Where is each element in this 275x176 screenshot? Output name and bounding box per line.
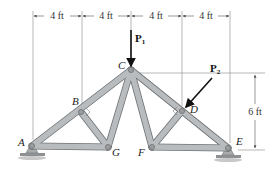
dimension-4: 4 ft (199, 10, 213, 21)
dimension-height: 6 ft (248, 106, 262, 117)
dimension-2: 4 ft (99, 10, 113, 21)
joint-label-C: C (118, 59, 126, 71)
joint-label-G: G (112, 146, 120, 158)
dimension-3: 4 ft (149, 10, 163, 21)
joint-label-B: B (72, 95, 79, 107)
load-P2-label: P2 (210, 62, 221, 76)
joint-label-E: E (235, 135, 243, 147)
joint-label-F: F (137, 146, 145, 158)
truss-figure: 4 ft 4 ft 4 ft 4 ft 6 ft (0, 0, 275, 176)
dimension-1: 4 ft (50, 10, 64, 21)
truss-diagram: 4 ft 4 ft 4 ft 4 ft 6 ft (0, 0, 275, 176)
load-P1-label: P1 (135, 32, 146, 46)
joint-label-D: D (189, 103, 198, 115)
truss-members (32, 70, 228, 148)
joint-label-A: A (17, 136, 25, 148)
